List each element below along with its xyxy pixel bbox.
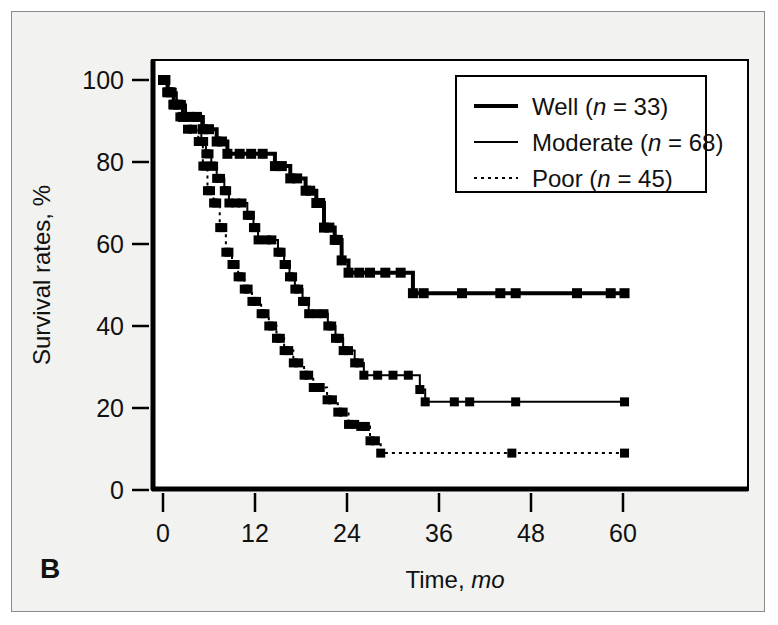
step-marker [344, 420, 353, 429]
censor-mark [380, 268, 390, 278]
step-marker [333, 408, 342, 417]
step-marker [319, 223, 329, 233]
censor-mark [495, 288, 505, 298]
censor-mark [606, 288, 616, 298]
step-marker [254, 235, 263, 244]
step-marker [408, 288, 418, 298]
censor-mark [620, 397, 629, 406]
step-marker [280, 346, 289, 355]
step-marker [221, 248, 230, 257]
step-marker [198, 162, 207, 171]
y-tick-label-40: 40 [96, 312, 124, 340]
step-marker [212, 137, 222, 147]
step-marker [198, 124, 208, 134]
censor-mark [373, 371, 382, 380]
censor-mark [258, 149, 268, 159]
step-marker [344, 268, 354, 278]
censor-mark [235, 149, 245, 159]
panel-label-text: B [40, 553, 60, 584]
step-marker [337, 255, 347, 265]
step-marker [421, 397, 430, 406]
step-marker [212, 174, 221, 183]
censor-mark [511, 397, 520, 406]
x-axis-title: Time, mo [405, 566, 504, 593]
step-marker [280, 260, 289, 269]
legend-label-pre: Well ( [532, 93, 593, 120]
step-marker [159, 76, 168, 85]
y-axis-title: Survival rates, % [28, 185, 55, 365]
step-marker [257, 309, 266, 318]
legend-label-post: = 68) [661, 129, 723, 156]
step-marker [220, 186, 229, 195]
legend-label-pre: Poor ( [532, 165, 597, 192]
survival-chart: 02040608010001224364860 Survival rates, … [0, 0, 778, 625]
censor-mark [404, 371, 413, 380]
step-marker [209, 199, 218, 208]
step-marker [289, 358, 298, 367]
step-marker [331, 334, 340, 343]
y-tick-label-20: 20 [96, 394, 124, 422]
censor-mark [620, 288, 630, 298]
x-tick-label-12: 12 [241, 519, 269, 547]
censor-mark [365, 268, 375, 278]
step-marker [222, 149, 232, 159]
step-marker [376, 449, 385, 458]
censor-mark [511, 288, 521, 298]
step-marker [168, 100, 177, 109]
censor-mark [465, 397, 474, 406]
step-marker [162, 88, 171, 97]
censor-mark [312, 309, 321, 318]
step-marker [249, 223, 258, 232]
step-marker [215, 223, 224, 232]
step-marker [415, 385, 424, 394]
legend-label-n-italic: n [648, 129, 661, 156]
censor-mark [457, 288, 467, 298]
chart-legend: Well (n = 33)Moderate (n = 68)Poor (n = … [456, 76, 723, 192]
step-marker [272, 334, 281, 343]
step-marker [203, 186, 212, 195]
step-marker [323, 322, 332, 331]
censor-mark [237, 199, 246, 208]
legend-label-n-italic: n [593, 93, 606, 120]
step-marker [300, 371, 309, 380]
legend-label-moderate: Moderate (n = 68) [532, 129, 723, 156]
censor-mark [267, 235, 276, 244]
censor-mark [246, 149, 256, 159]
step-marker [285, 173, 295, 183]
censor-mark [507, 449, 516, 458]
x-tick-label-36: 36 [425, 519, 453, 547]
censor-mark [320, 309, 329, 318]
step-marker [309, 383, 318, 392]
step-marker [298, 297, 307, 306]
y-tick-label-0: 0 [110, 476, 124, 504]
legend-label-n-italic: n [597, 165, 610, 192]
legend-label-post: = 45) [611, 165, 673, 192]
x-tick-label-48: 48 [517, 519, 545, 547]
step-marker [224, 199, 233, 208]
x-tick-label-0: 0 [156, 519, 170, 547]
figure-container: 02040608010001224364860 Survival rates, … [0, 0, 778, 625]
x-axis-title-plain: Time, [405, 566, 471, 593]
step-marker [247, 297, 256, 306]
step-marker [323, 395, 332, 404]
step-marker [311, 198, 321, 208]
step-marker [234, 272, 243, 281]
step-marker [359, 371, 368, 380]
legend-label-post: = 33) [606, 93, 668, 120]
censor-mark [396, 268, 406, 278]
x-tick-label-60: 60 [609, 519, 637, 547]
panel-label: B [40, 553, 60, 584]
censor-mark [620, 449, 629, 458]
y-tick-label-80: 80 [96, 148, 124, 176]
step-marker [339, 346, 348, 355]
legend-label-pre: Moderate ( [532, 129, 648, 156]
censor-mark [354, 268, 364, 278]
step-marker [366, 436, 375, 445]
step-marker [304, 309, 313, 318]
x-axis-title-italic: mo [471, 566, 504, 593]
step-marker [330, 235, 340, 245]
censor-mark [419, 288, 429, 298]
y-tick-label-100: 100 [82, 66, 124, 94]
legend-label-well: Well (n = 33) [532, 93, 668, 120]
step-marker [264, 322, 273, 331]
